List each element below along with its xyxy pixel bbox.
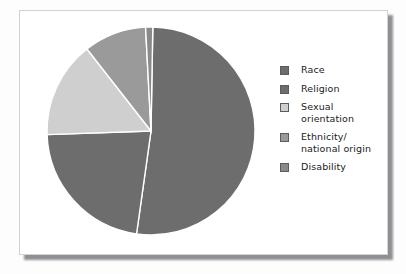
pie-chart (41, 18, 261, 248)
legend-label-religion: Religion (301, 83, 340, 95)
pie-slice[interactable] (137, 27, 255, 235)
legend-swatch-disability (280, 163, 289, 172)
pie-slice[interactable] (47, 131, 151, 234)
chart-panel: Race Religion Sexual orientation Ethnici… (19, 10, 388, 255)
legend-item-race[interactable]: Race (280, 64, 400, 76)
legend-item-ethnicity-national-origin[interactable]: Ethnicity/ national origin (280, 131, 400, 154)
legend-label-ethnicity-national-origin: Ethnicity/ national origin (301, 131, 371, 154)
pie-slice-group (47, 27, 255, 235)
legend-swatch-religion (280, 85, 289, 94)
legend-item-sexual-orientation[interactable]: Sexual orientation (280, 101, 400, 124)
legend-label-race: Race (301, 64, 325, 76)
legend-swatch-ethnicity-national-origin (280, 133, 289, 142)
figure-root: Race Religion Sexual orientation Ethnici… (0, 0, 406, 274)
pie-chart-svg (41, 18, 261, 248)
legend-label-sexual-orientation: Sexual orientation (301, 101, 354, 124)
chart-legend: Race Religion Sexual orientation Ethnici… (280, 64, 400, 180)
legend-item-religion[interactable]: Religion (280, 83, 400, 95)
legend-swatch-race (280, 66, 289, 75)
legend-label-disability: Disability (301, 161, 346, 173)
legend-swatch-sexual-orientation (280, 103, 289, 112)
legend-item-disability[interactable]: Disability (280, 161, 400, 173)
